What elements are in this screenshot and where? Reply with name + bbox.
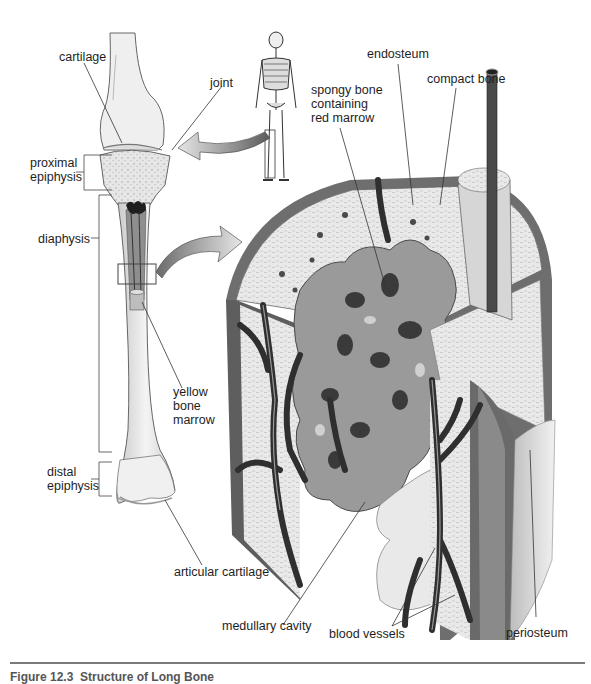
label-medullary-cavity: medullary cavity <box>222 619 312 633</box>
label-yellow-bone-marrow: yellow bone marrow <box>173 385 215 427</box>
caption-divider <box>10 662 585 664</box>
blood-vessel-canal <box>487 72 497 312</box>
arrow-to-joint <box>178 132 270 160</box>
label-blood-vessels: blood vessels <box>329 627 405 641</box>
tibia-shape <box>100 150 175 504</box>
label-distal-epiphysis: distal epiphysis <box>47 465 99 493</box>
femur-shape <box>100 33 164 150</box>
label-proximal-epiphysis: proximal epiphysis <box>30 156 82 184</box>
label-spongy-bone: spongy bone containing red marrow <box>311 83 383 125</box>
label-endosteum: endosteum <box>367 47 429 61</box>
arrow-to-cross-section <box>156 226 242 278</box>
label-compact-bone: compact bone <box>427 72 506 86</box>
region-brackets <box>76 155 112 496</box>
figure-caption: Figure 12.3 Structure of Long Bone <box>10 670 214 684</box>
label-articular-cartilage: articular cartilage <box>174 565 269 579</box>
skeleton-icon <box>256 32 296 180</box>
label-cartilage: cartilage <box>59 50 106 64</box>
label-periosteum: periosteum <box>506 626 568 640</box>
label-diaphysis: diaphysis <box>38 232 90 246</box>
label-joint: joint <box>210 76 233 90</box>
